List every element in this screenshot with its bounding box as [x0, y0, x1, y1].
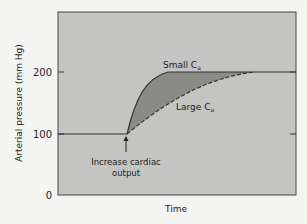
x-axis-label: Time [164, 204, 187, 214]
ytick-200: 200 [33, 67, 52, 78]
y-axis-label: Arterial pressure (mm Hg) [14, 44, 24, 162]
annotation-line2: output [112, 168, 141, 178]
annotation-line1: Increase cardiac [91, 157, 161, 167]
ytick-0: 0 [46, 190, 52, 201]
ytick-100: 100 [33, 129, 52, 140]
chart: 200 100 0 Arterial pressure (mm Hg) Time… [0, 0, 307, 224]
small-ca-label: Small Ca [163, 60, 201, 71]
large-ca-label: Large Ca [176, 102, 214, 113]
